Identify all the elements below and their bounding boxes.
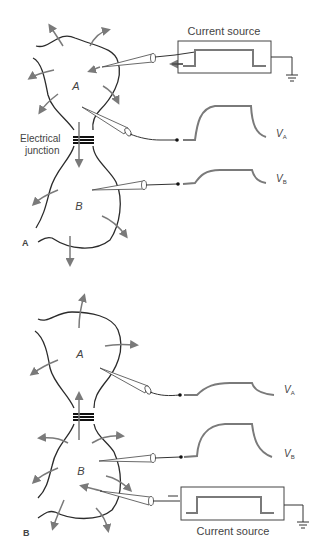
current-arrow-icon [92, 436, 122, 443]
va-label-b: VA [284, 384, 295, 396]
vb-label-a: VB [276, 173, 287, 185]
cell-b-membrane-left [36, 146, 74, 228]
current-arrow-icon [53, 500, 64, 528]
recording-electrode-a [82, 107, 179, 142]
cell-a-label: A [71, 80, 79, 92]
current-source-label-b: Current source [197, 525, 270, 537]
current-arrow-icon [34, 468, 58, 482]
current-arrow-icon [40, 438, 68, 443]
cell-a-membrane-left [33, 58, 74, 130]
trace-va-b [184, 383, 274, 395]
cell-b-label: B [75, 200, 82, 212]
current-source-label-a: Current source [188, 25, 261, 37]
current-arrow-icon [96, 508, 108, 530]
panel-a: A B Electrical junction Current source A… [20, 25, 298, 264]
trace-va-a [183, 106, 266, 140]
current-arrow-icon [50, 26, 63, 46]
current-source-a [178, 41, 298, 81]
cell-b-membrane-left [38, 424, 74, 498]
panel-b-label: B [23, 528, 30, 538]
ground-icon [297, 522, 309, 528]
stimulating-electrode-b [100, 491, 180, 506]
trace-vb-a [183, 170, 266, 184]
current-arrow-icon [90, 67, 100, 71]
current-source-b [181, 487, 309, 528]
ground-icon [286, 75, 298, 81]
recording-electrode-b [92, 181, 180, 191]
current-arrow-icon [34, 190, 58, 204]
vb-label-b: VB [284, 448, 295, 460]
electrical-junction-b [73, 414, 94, 420]
panel-b: A B Current source B VA VB [23, 296, 309, 538]
trace-vb-b [184, 424, 272, 457]
recording-electrode-a [100, 368, 182, 397]
current-arrow-icon [82, 486, 102, 491]
junction-label-line2: junction [24, 145, 59, 156]
current-arrow-icon [32, 360, 58, 374]
panel-a-label: A [22, 238, 29, 248]
stimulating-electrode-a [102, 52, 195, 67]
cell-a-membrane-left [35, 331, 74, 408]
electrical-junction-diagram: A B Electrical junction Current source A… [0, 0, 321, 546]
recording-electrode-b [99, 454, 183, 463]
electrical-junction-a [73, 137, 94, 143]
cell-b-label: B [77, 465, 84, 477]
junction-label-line1: Electrical [20, 133, 61, 144]
cell-a-label: A [75, 348, 83, 360]
current-arrow-icon [106, 476, 130, 490]
va-label-a: VA [276, 128, 287, 140]
